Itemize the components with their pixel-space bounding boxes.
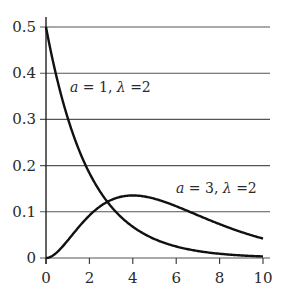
y-tick-label: 0.2 — [12, 157, 36, 175]
annotation-a1: a = 1, λ =2 — [70, 79, 151, 95]
y-tick-label: 0 — [26, 249, 36, 267]
x-tick-label: 8 — [215, 269, 225, 287]
annotations: a = 1, λ =2 a = 3, λ =2 — [70, 79, 257, 196]
x-tick-label: 2 — [85, 269, 95, 287]
chart-svg: 00.10.20.30.40.5 0246810 a = 1, λ =2 a =… — [0, 0, 288, 305]
y-axis-ticks: 00.10.20.30.40.5 — [12, 18, 36, 267]
x-tick-label: 4 — [128, 269, 138, 287]
y-tick-label: 0.5 — [12, 18, 36, 36]
curve-series-0 — [46, 27, 263, 256]
x-axis-ticks: 0246810 — [41, 258, 272, 287]
annotation-a3: a = 3, λ =2 — [176, 180, 257, 196]
gamma-distribution-chart: 00.10.20.30.40.5 0246810 a = 1, λ =2 a =… — [0, 0, 288, 305]
horizontal-gridlines — [40, 27, 270, 258]
curves — [46, 27, 263, 258]
x-tick-label: 0 — [41, 269, 51, 287]
y-tick-label: 0.4 — [12, 64, 36, 82]
y-tick-label: 0.1 — [12, 203, 36, 221]
y-tick-label: 0.3 — [12, 110, 36, 128]
x-tick-label: 10 — [253, 269, 272, 287]
x-tick-label: 6 — [171, 269, 181, 287]
curve-series-1 — [46, 195, 263, 258]
